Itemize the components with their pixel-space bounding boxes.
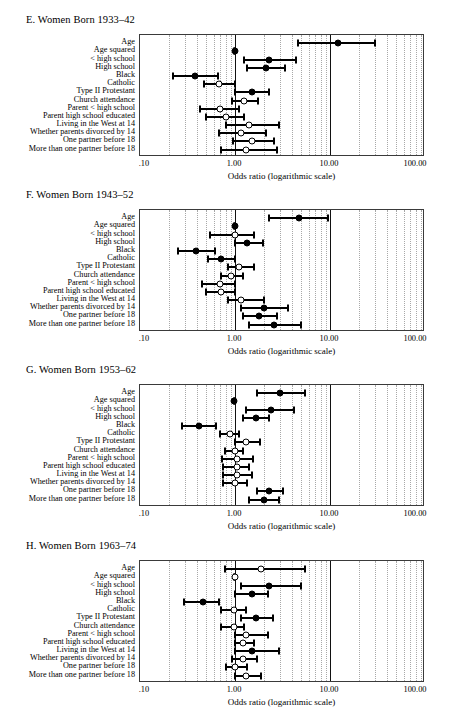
point-marker-nonsignificant (222, 113, 229, 120)
confidence-interval-cap (243, 623, 245, 630)
point-marker-nonsignificant (239, 656, 246, 663)
point-marker-nonsignificant (258, 566, 265, 573)
confidence-interval-cap (238, 105, 240, 112)
confidence-interval-cap (225, 664, 227, 671)
minor-gridline (264, 210, 265, 330)
confidence-interval-cap (295, 56, 297, 63)
confidence-interval-cap (234, 590, 236, 597)
minor-gridline (359, 385, 360, 505)
panel-title: G. Women Born 1953–62 (26, 364, 136, 375)
minor-gridline (410, 385, 411, 505)
confidence-interval-cap (262, 239, 264, 246)
x-tick-label: .10 (139, 334, 149, 343)
minor-gridline (264, 35, 265, 155)
confidence-interval-line (221, 149, 277, 151)
minor-gridline (301, 385, 302, 505)
point-marker-nonsignificant (248, 138, 255, 145)
minor-gridline (396, 561, 397, 681)
minor-gridline (197, 210, 198, 330)
confidence-interval-line (228, 299, 263, 301)
x-tick-label: 100.00 (403, 509, 426, 518)
minor-gridline (220, 35, 221, 155)
x-tick-label: 100.00 (403, 159, 426, 168)
minor-gridline (359, 561, 360, 681)
plot-box (139, 34, 424, 156)
minor-gridline (292, 561, 293, 681)
confidence-interval-cap (205, 288, 207, 295)
minor-gridline (226, 35, 227, 155)
confidence-interval-cap (222, 472, 224, 479)
x-tick-label: 10.00 (320, 685, 339, 694)
confidence-interval-cap (215, 422, 217, 429)
confidence-interval-cap (219, 431, 221, 438)
x-axis-title: Odds ratio (logarithmic scale) (139, 521, 424, 531)
confidence-interval-cap (218, 130, 220, 137)
confidence-interval-cap (242, 313, 244, 320)
minor-gridline (197, 385, 198, 505)
x-tick-label: .10 (139, 509, 149, 518)
minor-gridline (396, 210, 397, 330)
confidence-interval-cap (234, 81, 236, 88)
point-marker-nonsignificant (230, 607, 237, 614)
confidence-interval-cap (209, 231, 211, 238)
confidence-interval-cap (234, 280, 236, 287)
row-label: More than one partner before 18 (29, 320, 135, 328)
minor-gridline (280, 210, 281, 330)
confidence-interval-cap (278, 496, 280, 503)
minor-gridline (226, 385, 227, 505)
confidence-interval-cap (256, 390, 258, 397)
confidence-interval-cap (234, 439, 236, 446)
minor-gridline (206, 35, 207, 155)
confidence-interval-cap (252, 455, 254, 462)
confidence-interval-cap (222, 480, 224, 487)
confidence-interval-cap (231, 97, 233, 104)
confidence-interval-cap (256, 488, 258, 495)
plot-box (139, 384, 424, 506)
minor-gridline (326, 35, 327, 155)
confidence-interval-cap (217, 72, 219, 79)
confidence-interval-cap (257, 97, 259, 104)
minor-gridline (421, 210, 422, 330)
minor-gridline (315, 385, 316, 505)
confidence-interval-cap (246, 664, 248, 671)
confidence-interval-cap (276, 146, 278, 153)
confidence-interval-cap (242, 414, 244, 421)
minor-gridline (321, 385, 322, 505)
minor-gridline (309, 35, 310, 155)
confidence-interval-cap (248, 321, 250, 328)
confidence-interval-cap (273, 138, 275, 145)
x-tick-label: 1.00 (227, 509, 242, 518)
point-marker-significant (196, 422, 203, 429)
confidence-interval-cap (234, 256, 236, 263)
minor-gridline (169, 385, 170, 505)
confidence-interval-cap (234, 639, 236, 646)
minor-gridline (264, 561, 265, 681)
minor-gridline (292, 210, 293, 330)
minor-gridline (197, 561, 198, 681)
confidence-interval-cap (248, 496, 250, 503)
confidence-interval-cap (263, 297, 265, 304)
minor-gridline (416, 210, 417, 330)
point-marker-nonsignificant (242, 672, 249, 679)
minor-gridline (301, 35, 302, 155)
reference-line-10 (330, 35, 331, 155)
confidence-interval-cap (268, 414, 270, 421)
minor-gridline (375, 35, 376, 155)
point-marker-significant (268, 406, 275, 413)
minor-gridline (387, 210, 388, 330)
minor-gridline (169, 210, 170, 330)
row-label: More than one partner before 18 (29, 145, 135, 153)
minor-gridline (220, 385, 221, 505)
confidence-interval-cap (240, 305, 242, 312)
x-tick-label: 1.00 (227, 334, 242, 343)
confidence-interval-cap (278, 648, 280, 655)
minor-gridline (410, 35, 411, 155)
confidence-interval-cap (327, 215, 329, 222)
point-marker-nonsignificant (232, 447, 239, 454)
point-marker-significant (231, 223, 238, 230)
minor-gridline (214, 210, 215, 330)
confidence-interval-cap (293, 406, 295, 413)
confidence-interval-cap (253, 231, 255, 238)
minor-gridline (359, 210, 360, 330)
confidence-interval-cap (205, 113, 207, 120)
